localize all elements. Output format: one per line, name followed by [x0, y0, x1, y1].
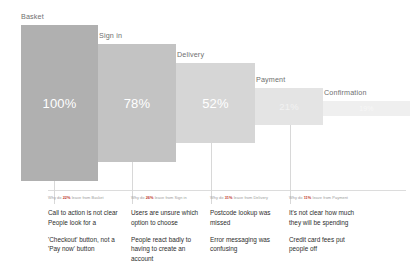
bar-value-delivery: 52%	[202, 97, 229, 110]
annotation-heading-prefix: Why do	[289, 195, 304, 200]
annotation-item: 'Checkout' button, not a'Pay now' button	[48, 235, 128, 255]
funnel-chart-page: Basket 100% Sign in 78% Delivery 52% Pay…	[0, 0, 417, 277]
connector-line-3	[211, 143, 212, 190]
bar-basket[interactable]: 100%	[21, 25, 98, 181]
bar-value-basket: 100%	[42, 97, 76, 110]
bar-value-confirmation: 19%	[359, 105, 374, 112]
annotation-item: It's not clear how muchthey will be spen…	[289, 208, 374, 228]
stage-label-delivery: Delivery	[177, 50, 204, 59]
stage-label-sign-in: Sign in	[99, 31, 122, 40]
connector-line-1	[54, 181, 55, 190]
connector-line-2	[132, 162, 133, 190]
annotation-heading-prefix: Why do	[210, 195, 225, 200]
annotation-heading-suffix: leave from Delivery	[233, 195, 268, 200]
annotation-column-payment: Why do 11% leave from Payment It's not c…	[289, 190, 374, 277]
stage-label-payment: Payment	[256, 75, 285, 84]
annotation-body-basket: Call to action is not clearPeople look f…	[48, 208, 128, 255]
annotation-body-payment: It's not clear how muchthey will be spen…	[289, 208, 374, 255]
annotation-item: Users are unsure whichoption to choose	[131, 208, 211, 228]
annotation-item: Error messaging wasconfusing	[210, 235, 290, 255]
annotation-item: People react badly tohaving to create an…	[131, 235, 211, 265]
bar-payment[interactable]: 21%	[255, 88, 323, 125]
annotation-column-sign-in: Why do 26% leave from Sign in Users are …	[131, 190, 211, 277]
stage-label-basket: Basket	[21, 12, 44, 21]
annotation-heading-suffix: leave from Sign in	[154, 195, 187, 200]
annotation-heading-basket: Why do 22% leave from Basket	[48, 196, 128, 201]
bar-confirmation[interactable]: 19%	[323, 101, 410, 116]
annotation-row: Why do 22% leave from Basket Call to act…	[0, 190, 417, 277]
annotation-item: Credit card fees putpeople off	[289, 235, 374, 255]
annotation-heading-suffix: leave from Basket	[71, 195, 104, 200]
annotation-body-delivery: Postcode lookup wasmissed Error messagin…	[210, 208, 290, 255]
bar-value-sign-in: 78%	[124, 97, 151, 110]
annotation-heading-prefix: Why do	[131, 195, 146, 200]
annotation-column-delivery: Why do 31% leave from Delivery Postcode …	[210, 190, 290, 277]
funnel-chart: Basket 100% Sign in 78% Delivery 52% Pay…	[0, 0, 417, 190]
annotation-column-basket: Why do 22% leave from Basket Call to act…	[48, 190, 128, 277]
bar-delivery[interactable]: 52%	[176, 63, 255, 143]
connector-line-4	[290, 125, 291, 190]
annotation-heading-pct: 26%	[146, 195, 154, 200]
bar-sign-in[interactable]: 78%	[98, 44, 176, 162]
annotation-item: Call to action is not clearPeople look f…	[48, 208, 128, 228]
bar-value-payment: 21%	[279, 102, 299, 112]
annotation-heading-payment: Why do 11% leave from Payment	[289, 196, 374, 201]
annotation-heading-sign-in: Why do 26% leave from Sign in	[131, 196, 211, 201]
annotation-heading-delivery: Why do 31% leave from Delivery	[210, 196, 290, 201]
annotation-heading-pct: 31%	[225, 195, 233, 200]
stage-label-confirmation: Confirmation	[324, 88, 367, 97]
annotation-heading-suffix: leave from Payment	[311, 195, 348, 200]
annotation-body-sign-in: Users are unsure whichoption to choose P…	[131, 208, 211, 265]
annotation-item: Postcode lookup wasmissed	[210, 208, 290, 228]
annotation-heading-pct: 22%	[63, 195, 71, 200]
annotation-heading-prefix: Why do	[48, 195, 63, 200]
